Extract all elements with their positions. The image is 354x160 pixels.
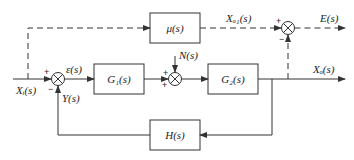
s2-plus-top-sign: + bbox=[163, 69, 168, 78]
mu-label: μ(s) bbox=[150, 13, 200, 43]
s2-plus-bottom-sign: + bbox=[162, 81, 167, 90]
s3-plus-sign: + bbox=[276, 17, 281, 26]
h-label: H(s) bbox=[150, 120, 200, 150]
summing-junction-2 bbox=[169, 73, 182, 86]
disturbance-label: N(s) bbox=[179, 50, 198, 61]
g1-label: G₁(s) bbox=[94, 64, 144, 94]
s3-minus-sign: − bbox=[279, 35, 284, 44]
feedback-label: Y(s) bbox=[62, 93, 80, 104]
s1-minus-sign: − bbox=[48, 85, 53, 94]
output-label: Xₒ(s) bbox=[313, 64, 334, 75]
summing-junction-1 bbox=[52, 73, 65, 86]
desired-output-label: Xₒ₁(s) bbox=[226, 13, 251, 24]
input-label: Xᵢ(s) bbox=[16, 85, 36, 96]
summing-junction-3 bbox=[282, 22, 295, 35]
s1-plus-sign: + bbox=[44, 68, 49, 77]
error-label: ε(s) bbox=[66, 64, 82, 75]
g2-label: G₂(s) bbox=[208, 64, 258, 94]
output-error-label: E(s) bbox=[320, 13, 338, 24]
